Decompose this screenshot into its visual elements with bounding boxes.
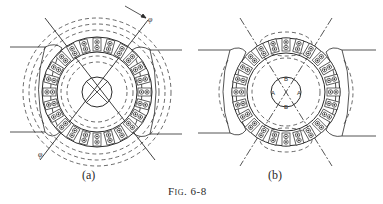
phi-label: φ [148, 15, 153, 24]
panel-label-a: (a) [82, 168, 95, 183]
phi-label: φ [38, 150, 43, 159]
brush-label-a-left: A [271, 90, 275, 96]
brush-label-b-bottom: B [284, 104, 288, 110]
diagram-panel-a: φ φ [0, 0, 190, 180]
brush-label-a-right: A [297, 90, 301, 96]
armature-diagram-a: φ φ [0, 0, 190, 180]
figure-caption: Fig. 6-8 [168, 185, 207, 197]
panel-label-b: (b) [268, 168, 282, 183]
diagram-panel-b: B A A B [190, 0, 383, 180]
armature-diagram-b: B A A B [190, 0, 383, 180]
brush-label-b-top: B [284, 76, 288, 82]
